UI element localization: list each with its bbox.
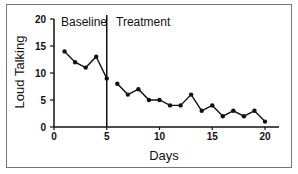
data-point: [221, 114, 225, 118]
y-ticks: 05101520: [35, 14, 54, 133]
y-tick-label: 20: [35, 14, 47, 25]
data-series: [62, 49, 267, 124]
x-tick-label: 20: [259, 131, 271, 142]
treatment-label: Treatment: [116, 15, 171, 29]
data-point: [231, 109, 235, 113]
data-point: [189, 92, 193, 96]
x-tick-label: 15: [207, 131, 219, 142]
data-point: [242, 114, 246, 118]
baseline-label: Baseline: [61, 15, 107, 29]
data-point: [178, 103, 182, 107]
data-point: [210, 103, 214, 107]
data-point: [147, 98, 151, 102]
y-tick-label: 5: [40, 95, 46, 106]
data-point: [252, 109, 256, 113]
data-point: [136, 87, 140, 91]
data-point: [263, 119, 267, 123]
data-point: [105, 76, 109, 80]
data-point: [83, 65, 87, 69]
x-ticks: 05101520: [51, 127, 271, 142]
y-tick-label: 15: [35, 41, 47, 52]
x-tick-label: 10: [154, 131, 166, 142]
series-line-baseline: [65, 51, 107, 78]
data-point: [115, 82, 119, 86]
x-axis-label: Days: [149, 148, 179, 163]
data-point: [126, 92, 130, 96]
y-axis-label: Loud Talking: [12, 36, 27, 109]
data-point: [94, 55, 98, 59]
y-tick-label: 0: [40, 122, 46, 133]
x-tick-label: 5: [104, 131, 110, 142]
data-point: [157, 98, 161, 102]
data-point: [168, 103, 172, 107]
data-point: [200, 109, 204, 113]
data-point: [73, 60, 77, 64]
data-point: [62, 49, 66, 53]
y-tick-label: 10: [35, 68, 47, 79]
x-tick-label: 0: [51, 131, 57, 142]
line-chart: 05101520 05101520 Baseline Treatment Day…: [0, 0, 298, 174]
